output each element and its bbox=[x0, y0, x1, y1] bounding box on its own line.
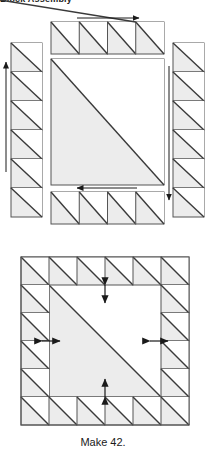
assembled-block bbox=[21, 257, 189, 425]
block-unit bbox=[49, 257, 77, 285]
bottom-strip-unit bbox=[108, 192, 136, 224]
right-strip bbox=[173, 43, 204, 217]
block-unit bbox=[77, 257, 105, 285]
right-strip-unit bbox=[173, 188, 204, 217]
block-unit bbox=[161, 285, 189, 313]
top-strip-unit bbox=[79, 22, 107, 54]
block-caption: Make 42. bbox=[0, 436, 206, 448]
left-strip bbox=[11, 43, 42, 217]
right-strip-unit bbox=[173, 130, 204, 159]
block-unit bbox=[21, 257, 49, 285]
block-unit bbox=[105, 257, 133, 285]
diagram-page: Block Assembly bbox=[0, 0, 206, 457]
block-unit bbox=[133, 397, 161, 425]
bottom-strip-unit bbox=[51, 192, 79, 224]
block-unit bbox=[161, 257, 189, 285]
bottom-strip-unit bbox=[79, 192, 107, 224]
block-unit bbox=[21, 397, 49, 425]
block-unit bbox=[49, 397, 77, 425]
left-strip-unit bbox=[11, 72, 42, 101]
bottom-strip bbox=[51, 192, 164, 224]
block-unit bbox=[21, 341, 49, 369]
block-unit bbox=[21, 369, 49, 397]
left-strip-unit bbox=[11, 101, 42, 130]
block-unit bbox=[161, 341, 189, 369]
block-unit bbox=[161, 313, 189, 341]
block-unit bbox=[21, 313, 49, 341]
top-strip-unit bbox=[108, 22, 136, 54]
left-strip-unit bbox=[11, 188, 42, 217]
left-strip-unit bbox=[11, 159, 42, 188]
center-half-square-triangle bbox=[51, 59, 164, 185]
block-unit bbox=[161, 397, 189, 425]
top-strip-unit bbox=[51, 22, 79, 54]
left-strip-unit bbox=[11, 43, 42, 72]
block-unit bbox=[21, 285, 49, 313]
block-unit bbox=[77, 397, 105, 425]
bottom-strip-unit bbox=[136, 192, 164, 224]
exploded-block-layout bbox=[0, 0, 204, 224]
quilt-assembly-diagram bbox=[0, 0, 206, 457]
block-unit bbox=[161, 369, 189, 397]
right-strip-unit bbox=[173, 72, 204, 101]
block-unit bbox=[105, 397, 133, 425]
right-strip-unit bbox=[173, 43, 204, 72]
right-strip-unit bbox=[173, 159, 204, 188]
right-strip-unit bbox=[173, 101, 204, 130]
left-strip-unit bbox=[11, 130, 42, 159]
block-unit bbox=[133, 257, 161, 285]
